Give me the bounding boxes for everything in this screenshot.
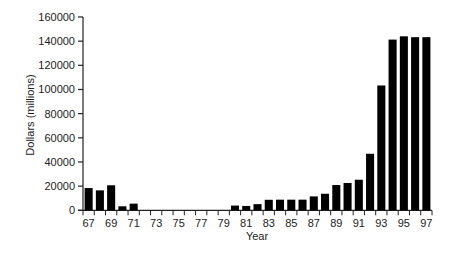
bar-67	[85, 188, 93, 210]
y-tick-label: 40000	[44, 156, 75, 168]
x-tick-label: 87	[308, 217, 320, 229]
bar-92	[366, 154, 374, 211]
x-tick-label: 69	[105, 217, 117, 229]
x-tick-label: 89	[330, 217, 342, 229]
y-tick-label: 60000	[44, 132, 75, 144]
bar-68	[96, 190, 104, 210]
bar-88	[321, 194, 329, 211]
bars	[85, 36, 431, 210]
x-tick-label: 71	[128, 217, 140, 229]
y-tick-label: 0	[69, 204, 75, 216]
bar-82	[253, 204, 261, 210]
x-tick-label: 75	[173, 217, 185, 229]
bar-87	[310, 196, 318, 210]
x-tick-label: 79	[218, 217, 230, 229]
bar-90	[344, 183, 352, 210]
x-tick-label: 97	[420, 217, 432, 229]
bar-71	[130, 204, 138, 211]
bar-85	[287, 200, 295, 211]
bar-84	[276, 200, 284, 211]
x-tick-label: 77	[195, 217, 207, 229]
y-tick-label: 140000	[38, 35, 75, 47]
y-tick-label: 160000	[38, 11, 75, 23]
x-tick-label: 81	[240, 217, 252, 229]
bar-91	[355, 180, 363, 211]
bar-83	[265, 200, 273, 211]
x-tick-label: 73	[150, 217, 162, 229]
bar-89	[332, 185, 340, 210]
y-tick-label: 20000	[44, 180, 75, 192]
x-axis: 67697173757779818385878991939597	[78, 210, 432, 229]
bar-86	[299, 200, 307, 211]
bar-70	[118, 206, 126, 210]
y-axis: 0200004000060000800001000001200001400001…	[38, 11, 83, 216]
x-tick-label: 85	[285, 217, 297, 229]
bar-chart: 0200004000060000800001000001200001400001…	[0, 0, 453, 258]
bar-80	[231, 206, 239, 211]
bar-93	[377, 86, 385, 211]
x-axis-title: Year	[246, 230, 269, 242]
y-tick-label: 80000	[44, 108, 75, 120]
bar-81	[242, 206, 250, 210]
x-tick-label: 67	[83, 217, 95, 229]
x-tick-label: 91	[353, 217, 365, 229]
bar-97	[422, 37, 430, 210]
x-tick-label: 95	[398, 217, 410, 229]
y-tick-label: 120000	[38, 59, 75, 71]
y-axis-title: Dollars (millions)	[24, 74, 36, 155]
bar-96	[411, 37, 419, 210]
bar-69	[107, 185, 115, 210]
x-tick-label: 83	[263, 217, 275, 229]
x-tick-label: 93	[375, 217, 387, 229]
bar-95	[400, 36, 408, 210]
y-tick-label: 100000	[38, 83, 75, 95]
bar-94	[389, 40, 397, 211]
